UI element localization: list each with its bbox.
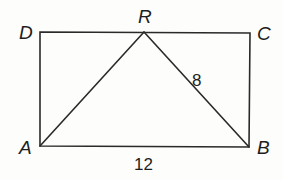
rectangle-abcd	[40, 32, 250, 147]
vertex-label-b: B	[257, 137, 270, 158]
geometry-diagram: D R C A B 12 8	[0, 0, 283, 180]
vertex-label-r: R	[138, 6, 152, 27]
segment-ar	[40, 32, 144, 146]
vertex-label-d: D	[19, 22, 33, 43]
length-label-rb: 8	[192, 71, 201, 90]
length-label-ab: 12	[134, 155, 153, 174]
vertex-label-a: A	[18, 137, 32, 158]
vertex-label-c: C	[257, 23, 271, 44]
